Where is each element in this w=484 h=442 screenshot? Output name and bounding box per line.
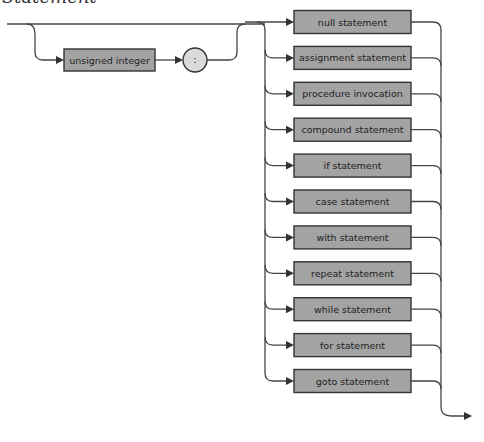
alt-exit-rail — [411, 22, 441, 30]
arrow-icon — [286, 126, 294, 134]
alt-entry-rail — [265, 229, 288, 237]
alt-exit-rail — [411, 381, 441, 389]
label-prefix-branch: unsigned integer : — [7, 24, 265, 72]
alternative-label: case statement — [316, 196, 390, 207]
arrow-icon — [286, 18, 294, 26]
arrow-icon — [286, 90, 294, 98]
unsigned-integer-label: unsigned integer — [69, 55, 150, 66]
syntax-diagram: unsigned integer : null statementassignm… — [0, 0, 484, 442]
alt-entry-rail — [265, 86, 288, 94]
alternative-label: if statement — [324, 160, 382, 171]
alt-entry-rail — [265, 373, 288, 381]
alt-entry-rail — [265, 301, 288, 309]
alternative-label: null statement — [318, 17, 388, 28]
alt-exit-rail — [411, 273, 441, 281]
alternative-label: for statement — [320, 340, 385, 351]
alt-exit-rail — [411, 58, 441, 66]
alt-entry-rail — [265, 122, 288, 130]
arrow-icon — [286, 54, 294, 62]
arrow-icon — [286, 233, 294, 241]
left-rail — [257, 22, 265, 373]
arrow-icon — [286, 377, 294, 385]
right-rail — [441, 30, 466, 416]
alt-entry-rail — [265, 265, 288, 273]
alternative-label: assignment statement — [299, 52, 406, 63]
alternatives-group: null statementassignment statementproced… — [245, 11, 472, 421]
alternative-label: procedure invocation — [302, 88, 403, 99]
alt-exit-rail — [411, 166, 441, 174]
arrow-icon — [286, 198, 294, 206]
arrow-icon — [286, 341, 294, 349]
arrow-icon — [286, 305, 294, 313]
alt-exit-rail — [411, 94, 441, 102]
alt-exit-rail — [411, 130, 441, 138]
prefix-branch-up — [207, 24, 245, 60]
alt-exit-rail — [411, 202, 441, 210]
alternative-label: goto statement — [316, 376, 390, 387]
arrow-icon — [286, 269, 294, 277]
alternative-label: with statement — [316, 232, 388, 243]
alt-entry-rail — [265, 50, 288, 58]
colon-label: : — [193, 54, 196, 65]
alt-exit-rail — [411, 237, 441, 245]
arrow-icon — [56, 56, 64, 64]
alternative-label: while statement — [314, 304, 391, 315]
alt-exit-rail — [411, 309, 441, 317]
alternative-label: repeat statement — [311, 268, 394, 279]
arrow-icon — [286, 162, 294, 170]
alt-exit-rail — [411, 345, 441, 353]
arrow-icon — [175, 56, 183, 64]
alt-entry-rail — [265, 194, 288, 202]
alt-entry-rail — [265, 158, 288, 166]
prefix-branch-down — [27, 24, 58, 60]
alternative-label: compound statement — [301, 124, 403, 135]
exit-arrow-icon — [464, 412, 472, 420]
alt-entry-rail — [265, 337, 288, 345]
